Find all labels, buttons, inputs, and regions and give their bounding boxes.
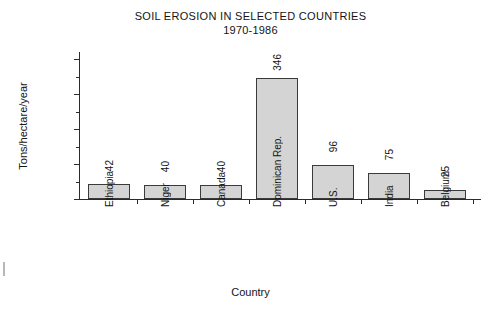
x-tick-label: India xyxy=(384,185,395,207)
chart-title: SOIL EROSION IN SELECTED COUNTRIES xyxy=(0,9,501,23)
bar-value-label: 75 xyxy=(384,149,395,160)
y-tick-major xyxy=(74,199,80,200)
x-tick-label: Dominican Rep. xyxy=(272,136,283,207)
y-tick-major xyxy=(74,59,80,60)
bar-value-label: 96 xyxy=(328,141,339,152)
x-tick-label: Canada xyxy=(216,172,227,207)
y-axis-label: Tons/hectare/year xyxy=(17,82,29,169)
y-axis-label-container: Tons/hectare/year xyxy=(14,52,32,200)
x-tick-major xyxy=(417,199,418,204)
y-tick-minor xyxy=(76,112,80,113)
bar-value-label: 40 xyxy=(160,161,171,172)
bar-value-label: 42 xyxy=(104,160,115,171)
bar-value-label: 346 xyxy=(272,54,283,71)
y-tick-minor xyxy=(76,182,80,183)
chart-title-block: SOIL EROSION IN SELECTED COUNTRIES 1970-… xyxy=(0,9,501,37)
x-tick-major xyxy=(249,199,250,204)
plot-area: 0100200300400 424040346967525 EthiopiaNi… xyxy=(79,52,481,199)
y-tick-major xyxy=(74,164,80,165)
y-tick-minor xyxy=(76,147,80,148)
chart-figure: SOIL EROSION IN SELECTED COUNTRIES 1970-… xyxy=(0,0,501,317)
x-axis-label: Country xyxy=(0,286,501,298)
x-tick-major xyxy=(193,199,194,204)
x-tick-major xyxy=(361,199,362,204)
x-tick-label: Belgium xyxy=(440,171,451,207)
y-tick-major xyxy=(74,129,80,130)
x-tick-label: Ethiopia xyxy=(104,171,115,207)
y-tick-minor xyxy=(76,77,80,78)
x-tick-label: U.S. xyxy=(328,188,339,207)
x-tick-major xyxy=(137,199,138,204)
chart-subtitle: 1970-1986 xyxy=(0,23,501,37)
x-tick-major xyxy=(305,199,306,204)
y-axis-line xyxy=(79,52,80,200)
x-tick-label: Niger xyxy=(160,183,171,207)
x-tick-major xyxy=(473,199,474,204)
scan-edge-artifact xyxy=(3,262,5,276)
bar-value-label: 40 xyxy=(216,161,227,172)
y-tick-major xyxy=(74,94,80,95)
